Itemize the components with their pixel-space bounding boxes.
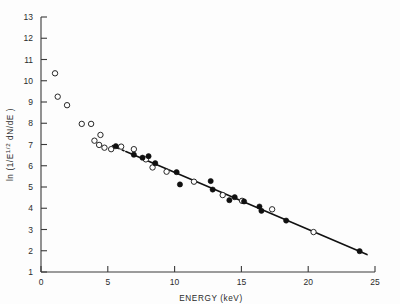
tick-labels-group: 123456789101112130510152025 (24, 12, 380, 287)
x-axis-tick-label: 15 (237, 277, 247, 287)
data-point-open (118, 144, 123, 149)
x-axis-tick-label: 0 (39, 277, 44, 287)
y-axis-tick-label: 2 (28, 246, 33, 256)
y-axis-tick-label: 9 (28, 97, 33, 107)
figure-container: 123456789101112130510152025 ENERGY (keV)… (0, 0, 400, 304)
y-axis-tick-label: 10 (24, 76, 34, 86)
data-point-filled (113, 144, 118, 149)
y-axis-title: ln (1/E1/2 dN/dE ) (4, 108, 15, 181)
y-axis-tick-label: 7 (28, 140, 33, 150)
data-point-filled (174, 170, 179, 175)
x-axis-tick-label: 5 (105, 277, 110, 287)
data-point-open (102, 145, 107, 150)
data-point-filled (153, 161, 158, 166)
y-axis-tick-label: 1 (28, 267, 33, 277)
y-axis-tick-label: 5 (28, 182, 33, 192)
data-point-open (64, 102, 69, 107)
y-axis-tick-label: 3 (28, 225, 33, 235)
data-point-filled (146, 154, 151, 159)
data-point-open (220, 192, 225, 197)
x-axis-title: ENERGY (keV) (179, 294, 242, 303)
data-points-group (52, 71, 362, 254)
data-point-open (269, 207, 274, 212)
data-point-filled (140, 155, 145, 160)
y-axis-tick-label: 12 (24, 33, 34, 43)
data-point-filled (210, 187, 215, 192)
data-point-filled (131, 152, 136, 157)
data-point-open (79, 121, 84, 126)
data-point-open (311, 229, 316, 234)
data-point-open (96, 142, 101, 147)
x-axis-tick-label: 10 (170, 277, 180, 287)
y-axis-tick-label: 11 (24, 55, 33, 65)
data-point-filled (284, 218, 289, 223)
data-point-open (92, 138, 97, 143)
x-axis-tick-label: 25 (370, 277, 380, 287)
data-point-filled (259, 208, 264, 213)
scatter-plot: 123456789101112130510152025 ENERGY (keV)… (0, 0, 400, 304)
y-axis-tick-label: 13 (24, 12, 34, 22)
y-axis-tick-label: 6 (28, 161, 33, 171)
y-axis-tick-label: 8 (28, 118, 33, 128)
data-point-filled (357, 249, 362, 254)
data-point-open (164, 169, 169, 174)
data-point-open (55, 94, 60, 99)
axes-group (41, 17, 375, 272)
ticks-group (41, 17, 375, 272)
data-point-open (88, 121, 93, 126)
data-point-filled (208, 178, 213, 183)
data-point-filled (232, 195, 237, 200)
data-point-open (131, 146, 136, 151)
y-axis-tick-label: 4 (28, 203, 33, 213)
data-point-filled (227, 198, 232, 203)
data-point-filled (177, 182, 182, 187)
data-point-filled (241, 199, 246, 204)
data-point-open (108, 146, 113, 151)
data-point-open (191, 179, 196, 184)
data-point-open (98, 132, 103, 137)
axis-titles-group: ENERGY (keV)ln (1/E1/2 dN/dE ) (4, 108, 243, 303)
data-point-open (52, 71, 57, 76)
x-axis-tick-label: 20 (303, 277, 313, 287)
